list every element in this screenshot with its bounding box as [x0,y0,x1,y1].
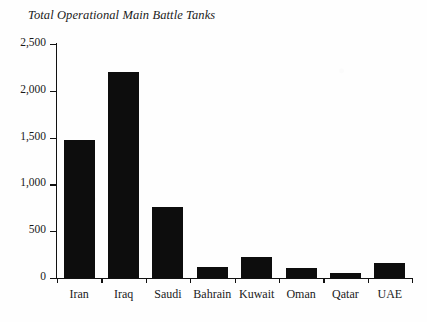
bar [241,257,272,278]
y-axis-tick-label: 500 [29,223,46,235]
bar [64,140,95,278]
y-axis-tick: 0 [50,278,57,279]
y-axis-tick: 1,500 [50,138,57,139]
x-axis-label: Saudi [154,287,181,302]
y-axis-tick: 1,000 [50,184,57,185]
x-axis-label: Iraq [114,287,133,302]
y-axis-tick-label: 1,500 [20,130,46,142]
x-axis-label: UAE [377,287,402,302]
y-axis-tick-label: 2,500 [20,36,46,48]
y-axis-tick: 500 [50,231,57,232]
x-axis-tick [146,278,147,283]
bar [108,72,139,278]
x-axis-tick [368,278,369,283]
x-axis-label: Oman [286,287,315,302]
x-axis-label: Qatar [332,287,359,302]
chart-page: Total Operational Main Battle Tanks 0500… [0,0,427,322]
x-axis-tick [279,278,280,283]
x-axis-label: Bahrain [193,287,231,302]
x-axis-tick [323,278,324,283]
x-axis-tick [101,278,102,283]
bar [374,263,405,278]
bar [330,273,361,278]
y-axis-tick: 2,000 [50,91,57,92]
bar [197,267,228,278]
plot-area: 05001,0001,5002,0002,500 [57,44,412,278]
y-axis-tick-label: 2,000 [20,83,46,95]
x-axis-tick [412,278,413,283]
bar [286,268,317,278]
bar [152,207,183,278]
x-axis-tick [190,278,191,283]
x-axis-label: Iran [70,287,89,302]
x-axis-tick [57,278,58,283]
chart-title: Total Operational Main Battle Tanks [28,8,215,23]
x-axis-tick [235,278,236,283]
y-axis-tick-label: 0 [40,270,46,282]
x-axis-label: Kuwait [239,287,274,302]
y-axis-tick-label: 1,000 [20,176,46,188]
y-axis-tick: 2,500 [50,44,57,45]
